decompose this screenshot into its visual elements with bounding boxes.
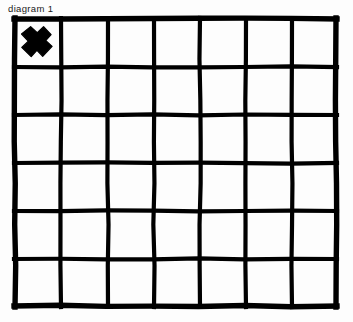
grid-cell-r3-c5[interactable] — [246, 163, 292, 211]
grid-cell-r3-c3[interactable] — [154, 163, 200, 211]
grid-cell-r0-c0[interactable] — [15, 19, 61, 67]
grid-cell-r4-c6[interactable] — [292, 211, 336, 259]
grid-cell-r1-c0[interactable] — [15, 67, 61, 115]
grid-cell-r4-c4[interactable] — [200, 211, 246, 259]
grid-cell-r2-c3[interactable] — [154, 115, 200, 163]
grid-cell-r1-c5[interactable] — [246, 67, 292, 115]
grid-cell-r2-c0[interactable] — [15, 115, 61, 163]
grid-cell-r3-c2[interactable] — [108, 163, 154, 211]
grid-cell-r1-c6[interactable] — [292, 67, 336, 115]
grid-cell-r4-c2[interactable] — [108, 211, 154, 259]
grid-cell-r2-c1[interactable] — [61, 115, 108, 163]
grid-cell-r5-c4[interactable] — [200, 259, 246, 306]
grid-cell-r1-c3[interactable] — [154, 67, 200, 115]
grid-canvas — [0, 0, 353, 322]
grid-cell-r4-c5[interactable] — [246, 211, 292, 259]
grid-cell-r5-c0[interactable] — [15, 259, 61, 306]
grid-cell-r3-c0[interactable] — [15, 163, 61, 211]
grid-cell-r0-c4[interactable] — [200, 19, 246, 67]
grid-cell-r3-c4[interactable] — [200, 163, 246, 211]
grid-cell-r4-c1[interactable] — [61, 211, 108, 259]
grid-cell-r5-c2[interactable] — [108, 259, 154, 306]
grid-cell-r1-c4[interactable] — [200, 67, 246, 115]
grid-cell-r0-c3[interactable] — [154, 19, 200, 67]
grid-cell-r3-c1[interactable] — [61, 163, 108, 211]
grid-cell-r0-c1[interactable] — [61, 19, 108, 67]
grid-cell-r0-c2[interactable] — [108, 19, 154, 67]
grid-cell-r0-c5[interactable] — [246, 19, 292, 67]
grid-cells[interactable] — [15, 19, 336, 306]
diagram-figure: diagram 1 — [0, 0, 353, 322]
grid-cell-r5-c6[interactable] — [292, 259, 336, 306]
grid-cell-r5-c1[interactable] — [61, 259, 108, 306]
grid-cell-r1-c2[interactable] — [108, 67, 154, 115]
grid-cell-r4-c0[interactable] — [15, 211, 61, 259]
grid-cell-r1-c1[interactable] — [61, 67, 108, 115]
grid-cell-r5-c5[interactable] — [246, 259, 292, 306]
grid-cell-r5-c3[interactable] — [154, 259, 200, 306]
grid-cell-r2-c2[interactable] — [108, 115, 154, 163]
grid-cell-r2-c6[interactable] — [292, 115, 336, 163]
grid-cell-r2-c4[interactable] — [200, 115, 246, 163]
grid-cell-r0-c6[interactable] — [292, 19, 336, 67]
grid-cell-r3-c6[interactable] — [292, 163, 336, 211]
grid-svg — [0, 0, 353, 322]
grid-cell-r2-c5[interactable] — [246, 115, 292, 163]
grid-cell-r4-c3[interactable] — [154, 211, 200, 259]
